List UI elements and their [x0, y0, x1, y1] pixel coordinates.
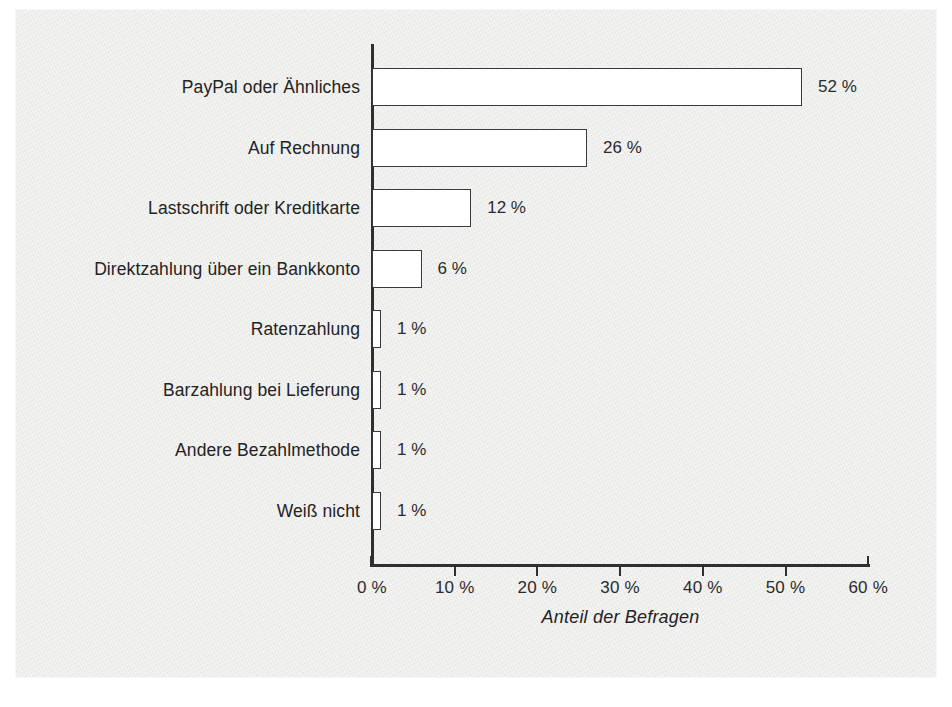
bar-category-label: Auf Rechnung [248, 137, 360, 158]
x-axis-tick [619, 567, 621, 576]
x-axis-end-tick [370, 556, 372, 567]
y-axis-line [371, 44, 374, 567]
x-axis-tick [536, 567, 538, 576]
x-axis-tick [785, 567, 787, 576]
bar-row: Barzahlung bei Lieferung1 % [0, 371, 952, 409]
x-axis-title: Anteil der Befragen [371, 607, 870, 628]
bar [372, 129, 587, 167]
bar [372, 310, 381, 348]
bar-row: Auf Rechnung26 % [0, 129, 952, 167]
bar [372, 189, 471, 227]
bar-row: Weiß nicht1 % [0, 492, 952, 530]
bar-row: Andere Bezahlmethode1 % [0, 431, 952, 469]
bar [372, 68, 802, 106]
bar-row: PayPal oder Ähnliches52 % [0, 68, 952, 106]
bar-value-label: 26 % [603, 138, 642, 158]
bar [372, 431, 381, 469]
horizontal-bar-chart: PayPal oder Ähnliches52 %Auf Rechnung26 … [0, 0, 952, 707]
x-axis-tick-label: 40 % [683, 578, 723, 598]
x-axis-tick [702, 567, 704, 576]
bar-value-label: 1 % [397, 501, 426, 521]
bar-category-label: Andere Bezahlmethode [175, 440, 360, 461]
x-axis-tick-label: 30 % [600, 578, 640, 598]
bar-row: Ratenzahlung1 % [0, 310, 952, 348]
bar-row: Direktzahlung über ein Bankkonto6 % [0, 250, 952, 288]
x-axis-tick-label: 10 % [435, 578, 475, 598]
x-axis-tick-label: 0 % [357, 578, 387, 598]
bar-category-label: PayPal oder Ähnliches [182, 77, 360, 98]
bar-value-label: 52 % [818, 77, 857, 97]
bar-category-label: Direktzahlung über ein Bankkonto [94, 258, 360, 279]
bar-category-label: Ratenzahlung [251, 319, 360, 340]
bar-category-label: Weiß nicht [277, 500, 360, 521]
bar-category-label: Lastschrift oder Kreditkarte [148, 198, 360, 219]
bar-value-label: 6 % [438, 259, 467, 279]
bar-category-label: Barzahlung bei Lieferung [163, 379, 360, 400]
bar-value-label: 1 % [397, 440, 426, 460]
x-axis-tick [454, 567, 456, 576]
bar [372, 492, 381, 530]
x-axis-tick-label: 20 % [518, 578, 558, 598]
bar [372, 371, 381, 409]
bar-value-label: 1 % [397, 380, 426, 400]
x-axis-end-tick [867, 556, 869, 567]
chart-page: PayPal oder Ähnliches52 %Auf Rechnung26 … [0, 0, 952, 707]
bar-value-label: 12 % [487, 198, 526, 218]
bar-value-label: 1 % [397, 319, 426, 339]
x-axis-tick-label: 60 % [848, 578, 888, 598]
x-axis-tick-label: 50 % [766, 578, 806, 598]
bar-row: Lastschrift oder Kreditkarte12 % [0, 189, 952, 227]
bar [372, 250, 422, 288]
